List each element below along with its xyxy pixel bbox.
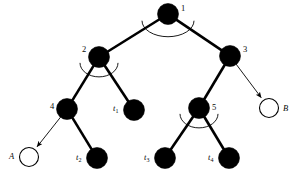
node-label: 5 — [212, 103, 216, 112]
node-label: B — [283, 104, 288, 113]
tree-node-filled — [89, 47, 110, 68]
node-label: 3 — [243, 45, 247, 54]
tree-edge — [107, 19, 161, 52]
nodes-layer — [20, 4, 279, 169]
tree-edge — [104, 65, 129, 103]
node-label: 1 — [181, 4, 185, 13]
tree-edge — [175, 19, 222, 51]
tree-node-filled — [87, 148, 108, 169]
node-label: A — [9, 152, 14, 161]
tree-node-filled — [57, 99, 78, 120]
tree-edge — [72, 117, 93, 151]
node-label: t3 — [144, 153, 149, 162]
node-label: 2 — [82, 45, 86, 54]
tree-node-filled — [155, 148, 176, 169]
tree-edge — [37, 116, 61, 147]
tree-edge — [204, 64, 226, 101]
tree-node-filled — [124, 100, 145, 121]
tree-edge — [204, 116, 225, 151]
tree-edge — [235, 63, 261, 97]
tree-node-open — [20, 148, 39, 167]
node-label: t4 — [208, 153, 213, 162]
tree-node-filled — [219, 148, 240, 169]
tree-diagram-figure: 12345ABt1t2t3t4 — [0, 0, 294, 179]
node-label: t1 — [113, 104, 118, 113]
tree-node-open — [260, 99, 279, 118]
edges-layer — [37, 19, 261, 151]
node-label: 4 — [50, 102, 54, 111]
tree-node-filled — [189, 98, 210, 119]
tree-node-filled — [158, 4, 179, 25]
tree-node-filled — [220, 46, 241, 67]
node-label: t2 — [76, 153, 81, 162]
